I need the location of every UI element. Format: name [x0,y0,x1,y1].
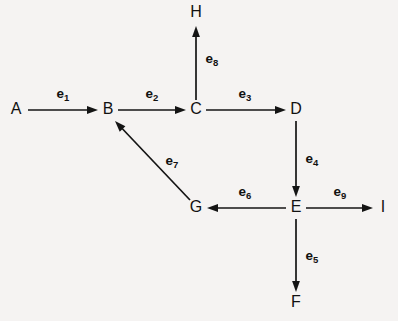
edge-e1[interactable] [28,106,98,114]
edge-label-subscript-e2: 2 [153,91,158,102]
edge-e3[interactable] [206,106,286,114]
edge-label-e4: e4 [306,151,320,167]
edge-labels-layer: e1e2e3e4e5e6e7e8e9 [57,51,347,264]
edge-label-e6: e6 [239,184,252,200]
edge-e2[interactable] [118,106,186,114]
edge-label-subscript-e5: 5 [313,253,319,264]
edge-e4[interactable] [292,121,300,197]
node-G[interactable]: G [190,198,202,215]
arrow-head-e6 [207,204,218,212]
nodes-layer: ABCDEFGHI [11,3,386,310]
directed-graph-svg: ABCDEFGHI e1e2e3e4e5e6e7e8e9 [0,0,398,321]
edge-line-e7 [121,128,190,200]
edge-label-e3: e3 [239,86,252,102]
node-F[interactable]: F [291,293,301,310]
edge-e8[interactable] [192,26,200,100]
arrow-head-e2 [175,106,186,114]
edges-layer [28,26,373,292]
edge-label-e5: e5 [306,248,320,264]
arrow-head-e3 [275,106,286,114]
arrow-head-e1 [87,106,98,114]
edge-label-e1: e1 [57,86,71,102]
edge-label-subscript-e1: 1 [64,91,70,102]
arrow-head-e5 [292,281,300,292]
arrow-head-e8 [192,26,200,37]
edge-label-e8: e8 [206,51,219,67]
edge-label-e9: e9 [334,184,347,200]
node-A[interactable]: A [11,100,22,117]
node-I[interactable]: I [381,198,385,215]
edge-label-e7: e7 [166,153,179,169]
arrow-head-e9 [362,204,373,212]
edge-label-subscript-e3: 3 [246,91,251,102]
edge-e9[interactable] [306,204,373,212]
edge-e5[interactable] [292,219,300,292]
node-B[interactable]: B [103,100,114,117]
edge-label-subscript-e7: 7 [173,158,178,169]
arrow-head-e4 [292,186,300,197]
node-C[interactable]: C [190,100,202,117]
edge-label-subscript-e4: 4 [313,156,319,167]
edge-e7[interactable] [115,121,190,200]
node-H[interactable]: H [190,3,202,20]
edge-label-subscript-e6: 6 [246,189,251,200]
edge-label-subscript-e8: 8 [213,56,218,67]
graph-diagram-canvas: ABCDEFGHI e1e2e3e4e5e6e7e8e9 [0,0,398,321]
node-E[interactable]: E [291,198,302,215]
edge-e6[interactable] [207,204,286,212]
edge-label-subscript-e9: 9 [341,189,346,200]
node-D[interactable]: D [290,100,302,117]
edge-label-e2: e2 [146,86,159,102]
